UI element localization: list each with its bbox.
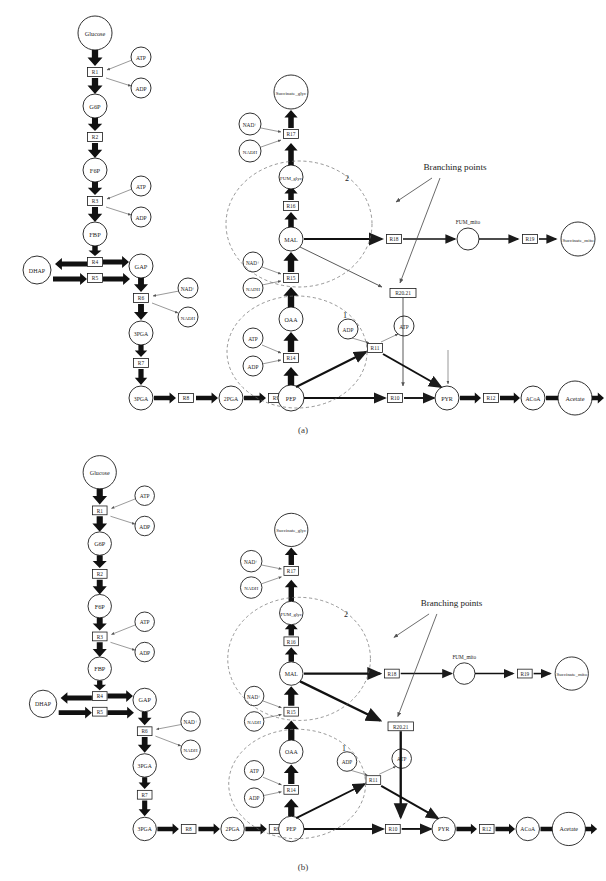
node-oaa-label: OAA [285, 749, 298, 755]
flux-fbp-r4 [93, 680, 106, 690]
reaction-r5: R5 [88, 274, 103, 283]
reaction-r19: R19 [518, 669, 533, 678]
reaction-r14: R14 [284, 785, 299, 794]
annotation-arrow-to-r2021 [400, 178, 440, 283]
flux-mal-r16 [285, 647, 298, 662]
cofactor-atp-r1-label: ATP [140, 493, 150, 499]
reaction-r17-label: R17 [287, 131, 296, 137]
node-pyr-label: PYR [441, 396, 453, 402]
edge-r3-adp [110, 642, 134, 650]
node-acoa-label: ACoA [525, 396, 541, 402]
node-gap-label: GAP [138, 696, 151, 703]
node-oaa: OAA [279, 307, 303, 331]
node-acoa: ACoA [521, 386, 545, 410]
reaction-r12-label: R12 [487, 395, 496, 401]
node-pep: PEP [279, 816, 304, 841]
panel-b: GlucoseR1G6PR2F6PR3FBPATPADPATPADPR4R5DH… [0, 440, 606, 870]
cofactor-atp-r1-label: ATP [136, 55, 146, 61]
ellipse-2-label: 2 [344, 610, 348, 619]
edge-adp-r11 [352, 338, 369, 343]
flux-fbp-r4 [89, 246, 102, 256]
node-succinate-mito-label: Succinate_mito [562, 238, 594, 243]
node-succinate-glyc-label: Succinate_glyc [276, 528, 307, 533]
node-2pga-label: 2PGA [224, 396, 239, 402]
edge-atp-r3 [111, 625, 135, 635]
node-fum-glyc-label: FUM_glyc [281, 612, 303, 617]
flux-mal-r16 [284, 212, 297, 227]
edge-r11-atp [381, 334, 398, 342]
node-pyr: PYR [432, 817, 455, 840]
reaction-r2021: R20.21 [390, 289, 416, 298]
cofactor-adp-r1: ADP [135, 516, 155, 536]
node-2pga-label: 2PGA [226, 826, 241, 832]
cofactor-nadh-r15-label: NADH [247, 720, 261, 725]
ellipse-2-label: 2 [345, 174, 349, 183]
cofactor-adp-r11: ADP [337, 752, 357, 772]
reaction-r8: R8 [181, 825, 196, 834]
reaction-r2: R2 [92, 569, 107, 578]
edge-adp-r14 [262, 360, 281, 364]
flux-r1-g6p [88, 78, 103, 94]
reaction-r14: R14 [284, 354, 299, 363]
reaction-r17: R17 [284, 567, 299, 576]
node-2pga: 2PGA [219, 386, 243, 410]
cofactor-nadh-r17-label: NADH [244, 586, 259, 591]
reaction-r5-label: R5 [97, 709, 104, 715]
node-3pga: 3PGA [129, 386, 153, 410]
node-g6p-label: G6P [94, 540, 106, 547]
cofactor-atp-r11-label: ATP [399, 324, 409, 330]
edge-r17-nad [261, 128, 281, 132]
node-f6p: F6P [83, 158, 107, 182]
node-succinate-glyc-label: Succinate_glyc [276, 91, 307, 96]
node-mal-label: MAL [284, 237, 298, 243]
reaction-r19-label: R19 [526, 236, 535, 242]
edge-atp-r3 [107, 189, 132, 199]
edge-adp-r14 [263, 792, 282, 796]
cofactor-atp-r14-label: ATP [249, 768, 258, 774]
reaction-r4-label: R4 [97, 693, 104, 699]
reaction-r8: R8 [179, 394, 194, 403]
flux-3pga-r7 [135, 345, 147, 357]
cofactor-nadh-r15-label: NADH [246, 287, 260, 292]
node-g6p-label: G6P [89, 103, 101, 110]
node-pep-label: PEP [286, 826, 297, 832]
node-dhap-label: DHAP [29, 268, 46, 274]
node-succinate-mito: Succinate_mito [555, 657, 588, 690]
edge-r3-adp [106, 207, 131, 215]
reaction-r6-label: R6 [138, 295, 145, 301]
node-glucose: Glucose [78, 16, 112, 50]
reaction-r18: R18 [385, 669, 400, 678]
flux-r12-acoa [500, 393, 520, 404]
reaction-r1-label: R1 [92, 69, 99, 75]
flux-pep-r11 [296, 352, 366, 387]
node-acetate-label: Acetate [560, 826, 579, 832]
edge-r15-nad [263, 701, 282, 708]
flux-r11-pyr [383, 354, 441, 387]
cofactor-atp-r1: ATP [135, 486, 155, 506]
cofactor-adp-r11: ADP [338, 319, 358, 339]
cofactor-adp-r14: ADP [244, 788, 264, 808]
cofactor-nad-r15: NAD⁺ [243, 252, 263, 272]
node-gap-label: GAP [135, 263, 148, 270]
node-f6p: F6P [88, 594, 111, 617]
node-fbp-label: FBP [89, 231, 101, 238]
reaction-r2021: R20.21 [388, 722, 413, 731]
reaction-r15-label: R15 [287, 709, 296, 715]
cofactor-nad-r17: NAD⁺ [239, 113, 261, 135]
node-3pga-label: 3PGA [138, 826, 153, 832]
reaction-r5-label: R5 [92, 275, 99, 281]
reaction-r16: R16 [284, 202, 299, 211]
flux-r6-3pga [134, 304, 148, 320]
edge-r11-atp [379, 766, 396, 774]
cofactor-nadh-r6: NADH [178, 307, 198, 327]
node-3pga-upper-label: 3PGA [138, 763, 153, 769]
node-fbp-label: FBP [94, 665, 106, 672]
flux-mal-r2021 [300, 247, 382, 287]
flux-r2-f6p [93, 580, 107, 595]
reaction-r10-label: R10 [389, 826, 398, 832]
reaction-r3-label: R3 [97, 634, 104, 640]
reaction-r10: R10 [386, 825, 401, 834]
node-acetate: Acetate [558, 381, 592, 415]
cofactor-atp-r3: ATP [131, 176, 151, 196]
reaction-r4: R4 [88, 258, 103, 267]
